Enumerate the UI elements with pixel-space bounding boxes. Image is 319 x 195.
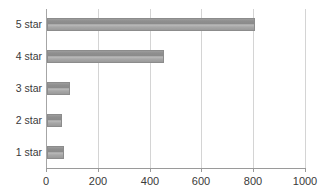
x-label-800: 800 [244,175,262,187]
gridline-200 [98,9,99,168]
x-axis-line [46,168,306,169]
x-label-600: 600 [192,175,210,187]
gridline-400 [150,9,151,168]
bar-4-star [47,50,164,63]
y-axis-labels: 5 star4 star3 star2 star1 star [0,0,42,195]
x-tick-200 [98,168,99,172]
x-tick-1000 [305,168,306,172]
bar-5-star [47,18,255,31]
gridline-800 [253,9,254,168]
x-label-200: 200 [89,175,107,187]
bar-2-star [47,114,62,127]
y-label-4-star: 4 star [0,51,42,62]
bar-3-star [47,82,70,95]
bar-1-star [47,146,64,159]
y-label-5-star: 5 star [0,19,42,30]
x-label-0: 0 [43,175,49,187]
gridline-1000 [305,9,306,168]
y-label-3-star: 3 star [0,83,42,94]
y-label-1-star: 1 star [0,147,42,158]
y-label-2-star: 2 star [0,115,42,126]
bar-chart: 5 star4 star3 star2 star1 star 020040060… [0,0,319,195]
x-label-400: 400 [141,175,159,187]
x-tick-400 [150,168,151,172]
gridline-600 [201,9,202,168]
clipped-title-text [0,0,319,2]
x-tick-0 [46,168,47,172]
x-label-1000: 1000 [293,175,317,187]
x-tick-600 [201,168,202,172]
x-tick-800 [253,168,254,172]
plot-area [46,9,305,168]
